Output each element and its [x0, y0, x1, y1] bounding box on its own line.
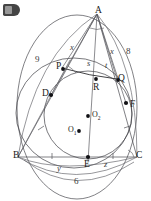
geometry-drawing — [0, 0, 151, 201]
point-label-E: E — [84, 160, 90, 170]
geometry-figure: A B C D E F P Q R O2 O1 9 8 6 x x s t y … — [0, 0, 151, 201]
point-label-C: C — [136, 151, 142, 161]
point-label-F: F — [130, 100, 135, 110]
point-dot-O1 — [77, 129, 81, 133]
point-label-P: P — [56, 62, 61, 72]
chord-PQ — [62, 68, 117, 79]
label-t: t — [105, 61, 107, 70]
point-dot-P — [61, 67, 65, 71]
point-label-B: B — [13, 151, 19, 161]
arc-BC-outer — [24, 160, 134, 181]
angle-arc-P — [68, 66, 76, 73]
point-label-D: D — [42, 89, 49, 99]
center-label-O1-subscript: 1 — [74, 130, 77, 136]
side-AC — [97, 14, 137, 157]
center-label-O2-subscript: 2 — [98, 115, 101, 121]
point-dot-F — [124, 101, 128, 105]
point-dot-D — [49, 93, 53, 97]
label-s: s — [87, 59, 90, 68]
point-dot-O2 — [86, 114, 90, 118]
label-x-left: x — [70, 43, 74, 52]
point-label-A: A — [95, 6, 102, 16]
label-y: y — [57, 164, 61, 173]
label-9: 9 — [35, 55, 40, 64]
point-dot-R — [94, 77, 98, 81]
label-z: z — [104, 160, 107, 169]
tick-BD — [38, 126, 44, 130]
point-label-Q: Q — [118, 74, 125, 84]
center-label-O1: O1 — [68, 126, 77, 136]
point-label-R: R — [93, 83, 99, 93]
cevian-AP — [62, 14, 97, 68]
label-6: 6 — [74, 177, 79, 186]
arc-BEC — [18, 157, 137, 166]
middle-circle — [16, 58, 132, 168]
label-x-right: x — [110, 47, 114, 56]
circumcircle — [17, 15, 137, 199]
label-8: 8 — [126, 47, 131, 56]
center-label-O2: O2 — [92, 111, 101, 121]
